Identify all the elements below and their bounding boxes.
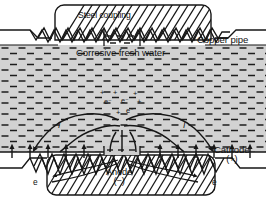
diagram-canvas: Steel coupling Copper pipe Corrosive fre… [0,0,266,199]
ion-electron-1: e⁻ [104,97,112,106]
label-electron-right: e [212,178,217,187]
label-anode: Anode (−) [106,168,132,187]
label-corrosive-fresh-water: Corrosive fresh water [76,48,165,58]
ion-cation-4: + [100,88,104,97]
ion-cation-3: + [137,97,141,106]
label-steel-coupling: Steel coupling [78,11,131,20]
label-cathode-sign: (+) [214,155,250,164]
ion-electron-2: e⁻ [121,96,129,105]
current-label-right: I [183,120,185,130]
corrosion-diagram-svg [0,0,266,199]
label-anode-sign: (−) [106,177,132,186]
label-electron-left: e [33,178,38,187]
ion-cation-1: + [113,88,117,97]
label-copper-pipe: Copper pipe [197,35,248,45]
label-cathode: Cathode (+) [214,145,250,164]
ion-electron-3: e⁻ [126,106,134,115]
current-label-left: I [58,120,60,130]
bottom-steel-coupling-body [40,150,238,199]
ion-cation-5: + [116,108,120,117]
